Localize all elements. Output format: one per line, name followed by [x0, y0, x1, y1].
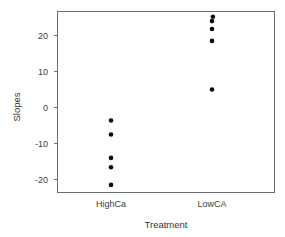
- y-axis-title: Slopes: [11, 92, 22, 121]
- y-tick-label-10: 10: [38, 67, 48, 77]
- data-points-layer: [109, 14, 216, 187]
- x-axis-title: Treatment: [145, 219, 188, 230]
- chart-figure: 20 10 0 -10 -20 Slopes HighCa LowCA Trea…: [0, 0, 285, 237]
- data-point: [210, 19, 215, 24]
- x-axis-tick-labels: HighCa LowCA: [96, 199, 227, 209]
- plot-frame: [58, 12, 275, 193]
- x-tick-label-lowca: LowCA: [197, 199, 226, 209]
- y-tick-label-0: 0: [43, 103, 48, 113]
- y-tick-label-20: 20: [38, 31, 48, 41]
- data-point: [109, 118, 114, 123]
- y-axis-ticks: [54, 36, 58, 180]
- data-point: [109, 132, 114, 137]
- scatter-plot: 20 10 0 -10 -20 Slopes HighCa LowCA Trea…: [0, 0, 285, 237]
- data-point: [211, 14, 216, 19]
- data-point: [210, 87, 215, 92]
- data-point: [210, 39, 215, 44]
- y-tick-label-neg20: -20: [35, 175, 48, 185]
- data-point: [109, 183, 114, 188]
- y-axis-tick-labels: 20 10 0 -10 -20: [35, 31, 48, 185]
- y-tick-label-neg10: -10: [35, 139, 48, 149]
- data-point: [109, 156, 114, 161]
- data-point: [210, 27, 215, 32]
- data-point: [109, 165, 114, 170]
- x-tick-label-highca: HighCa: [96, 199, 126, 209]
